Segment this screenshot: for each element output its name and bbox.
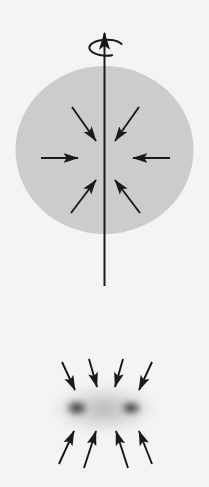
- dense-core-left: [62, 397, 92, 419]
- diffuse-halo: [42, 380, 166, 438]
- dense-core-right: [117, 398, 145, 418]
- physics-diagram: [0, 0, 209, 487]
- figure-container: Rotating cloud collapse and binary fragm…: [0, 0, 209, 487]
